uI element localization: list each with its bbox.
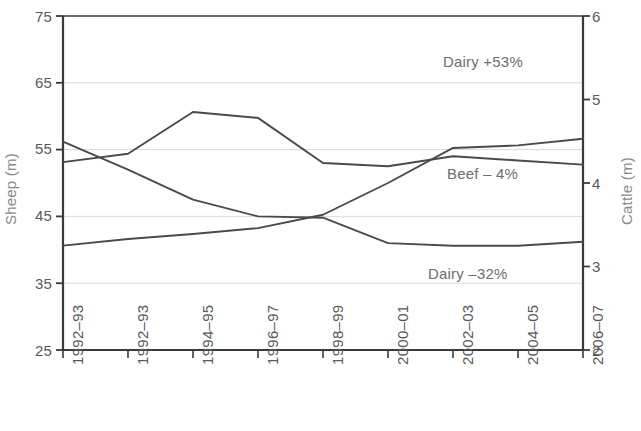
xtick-label: 2000–01	[394, 305, 411, 366]
annotation-beef: Beef – 4%	[447, 165, 518, 182]
line-chart: 75 65 55 45 35 25 6 5 4 3 2 Sheep (m) Ca…	[0, 0, 641, 431]
y-axis-title-left: Sheep (m)	[2, 153, 19, 225]
ytick-right-6: 6	[592, 8, 626, 25]
ytick-left-75: 75	[18, 8, 52, 25]
ytick-left-45: 45	[18, 207, 52, 224]
y-axis-title-right: Cattle (m)	[618, 157, 635, 225]
annotation-dairy-down: Dairy –32%	[428, 265, 508, 282]
xtick-label: 1998–99	[329, 305, 346, 366]
ytick-left-25: 25	[18, 342, 52, 359]
series-line-sheep-declining	[63, 142, 583, 246]
gridlines	[63, 83, 583, 283]
ytick-left-65: 65	[18, 74, 52, 91]
ytick-right-5: 5	[592, 91, 626, 108]
series-line-dairy-rising	[63, 139, 583, 246]
ytick-left-55: 55	[18, 140, 52, 157]
xtick-label: 2006–07	[589, 305, 606, 366]
ytick-left-35: 35	[18, 275, 52, 292]
ytick-right-3: 3	[592, 258, 626, 275]
xtick-label: 1992–93	[134, 305, 151, 366]
xtick-label: 2002–03	[459, 305, 476, 366]
xtick-label: 2004–05	[524, 305, 541, 366]
xtick-label: 1992–93	[69, 305, 86, 366]
annotation-dairy-up: Dairy +53%	[443, 53, 523, 70]
xtick-label: 1994–95	[199, 305, 216, 366]
series-line-beef	[63, 112, 583, 166]
xtick-label: 1996–97	[264, 305, 281, 366]
chart-plot-area	[0, 0, 641, 431]
